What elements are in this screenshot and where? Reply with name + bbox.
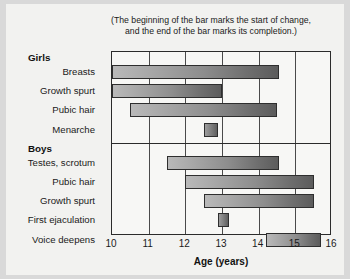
x-tick-label-11: 11 <box>133 238 163 249</box>
row-label-boys-testes-scrotum: Testes, scrotum <box>0 157 95 168</box>
chart-figure: (The beginning of the bar marks the star… <box>6 4 344 275</box>
bar-girls-breasts <box>112 65 279 79</box>
caption-line-1: (The beginning of the bar marks the star… <box>84 15 338 26</box>
row-label-girls-breasts: Breasts <box>0 66 95 77</box>
row-label-boys-first-ejaculation: First ejaculation <box>0 214 95 225</box>
group-divider <box>112 143 330 145</box>
x-tick-label-14: 14 <box>243 238 273 249</box>
x-tick-label-13: 13 <box>206 238 236 249</box>
bar-girls-pubic-hair <box>130 103 277 117</box>
chart-caption: (The beginning of the bar marks the star… <box>84 15 338 37</box>
plot-area <box>111 51 331 235</box>
row-label-girls-pubic-hair: Pubic hair <box>0 104 95 115</box>
bar-girls-menarche <box>204 123 219 137</box>
bar-girls-growth-spurt <box>112 84 222 98</box>
group-label-boys: Boys <box>28 143 52 154</box>
bar-boys-testes-scrotum <box>167 156 279 170</box>
bar-boys-growth-spurt <box>204 194 314 208</box>
x-tick-label-16: 16 <box>316 238 346 249</box>
x-axis-title: Age (years) <box>111 256 331 267</box>
bar-boys-first-ejaculation <box>218 213 229 227</box>
x-tick-label-10: 10 <box>96 238 126 249</box>
group-label-girls: Girls <box>28 52 50 63</box>
row-label-girls-menarche: Menarche <box>0 124 95 135</box>
row-label-boys-growth-spurt: Growth spurt <box>0 195 95 206</box>
x-tick-label-12: 12 <box>169 238 199 249</box>
bar-boys-pubic-hair <box>185 175 313 189</box>
row-label-girls-growth-spurt: Growth spurt <box>0 85 95 96</box>
x-tick-label-15: 15 <box>279 238 309 249</box>
row-label-boys-voice-deepens: Voice deepens <box>0 234 95 245</box>
caption-line-2: and the end of the bar marks its complet… <box>84 26 338 37</box>
row-label-boys-pubic-hair: Pubic hair <box>0 176 95 187</box>
